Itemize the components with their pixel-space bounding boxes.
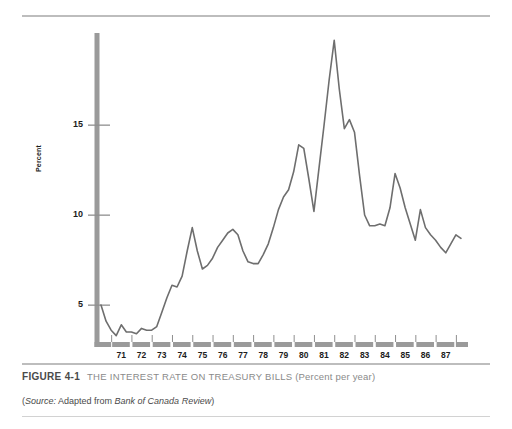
x-axis-segment	[173, 342, 191, 347]
x-tick-mark	[192, 335, 193, 342]
x-axis-segment	[193, 342, 211, 347]
x-tick-label-75: 75	[191, 350, 213, 360]
x-tick-label-80: 80	[293, 350, 315, 360]
x-tick-label-81: 81	[313, 350, 335, 360]
source-publication: Bank of Canada Review	[115, 396, 212, 406]
y-tick-mark	[88, 125, 110, 126]
y-axis-bar	[95, 33, 100, 347]
x-tick-mark	[152, 335, 153, 342]
x-axis-segment	[356, 342, 374, 347]
x-tick-label-73: 73	[151, 350, 173, 360]
caption-divider-rule	[22, 363, 490, 365]
x-tick-label-76: 76	[212, 350, 234, 360]
x-tick-mark	[415, 335, 416, 342]
y-tick-label-5: 5	[61, 299, 83, 309]
series-line-treasury-bill-rate	[101, 40, 461, 335]
x-axis-segment	[437, 342, 455, 347]
x-tick-label-74: 74	[171, 350, 193, 360]
x-axis-segment	[456, 342, 468, 347]
figure-caption: FIGURE 4-1THE INTEREST RATE ON TREASURY …	[22, 371, 492, 382]
x-axis-segment	[416, 342, 434, 347]
x-tick-mark	[456, 335, 457, 342]
x-tick-mark	[213, 335, 214, 342]
x-tick-label-79: 79	[273, 350, 295, 360]
x-tick-mark	[294, 335, 295, 342]
source-text: Adapted from	[56, 396, 115, 406]
x-axis-segment	[315, 342, 333, 347]
x-tick-mark	[253, 335, 254, 342]
x-tick-label-87: 87	[435, 350, 457, 360]
x-axis-segment	[376, 342, 394, 347]
x-axis-segment	[254, 342, 272, 347]
x-tick-mark	[334, 335, 335, 342]
x-axis-segment	[214, 342, 232, 347]
y-tick-mark	[88, 215, 110, 216]
x-tick-mark	[354, 335, 355, 342]
x-axis-segment	[153, 342, 171, 347]
y-tick-label-10: 10	[61, 209, 83, 219]
figure-page: Percent 51015 71727374757677787980818283…	[0, 0, 512, 429]
x-tick-mark	[111, 335, 112, 342]
x-axis-segment	[295, 342, 313, 347]
x-tick-label-85: 85	[394, 350, 416, 360]
source-label: Source:	[25, 396, 56, 406]
x-axis-segment	[234, 342, 252, 347]
x-tick-label-71: 71	[110, 350, 132, 360]
x-tick-mark	[314, 335, 315, 342]
x-tick-mark	[131, 335, 132, 342]
x-axis-segment	[112, 342, 130, 347]
x-tick-label-72: 72	[131, 350, 153, 360]
x-tick-marks	[95, 335, 469, 347]
x-tick-label-83: 83	[354, 350, 376, 360]
x-axis-segment	[396, 342, 414, 347]
x-axis-segment	[132, 342, 150, 347]
x-tick-label-78: 78	[252, 350, 274, 360]
x-tick-mark	[436, 335, 437, 342]
figure-title: THE INTEREST RATE ON TREASURY BILLS	[87, 371, 292, 382]
x-tick-label-84: 84	[374, 350, 396, 360]
x-axis-segment	[274, 342, 292, 347]
x-tick-label-77: 77	[232, 350, 254, 360]
y-tick-mark	[88, 305, 110, 306]
x-tick-label-82: 82	[333, 350, 355, 360]
x-tick-mark	[172, 335, 173, 342]
axis-group	[95, 33, 100, 347]
figure-source: (Source: Adapted from Bank of Canada Rev…	[22, 396, 214, 406]
x-tick-mark	[233, 335, 234, 342]
x-tick-mark	[375, 335, 376, 342]
x-tick-mark	[395, 335, 396, 342]
figure-number: FIGURE 4-1	[22, 371, 80, 382]
bottom-divider-rule	[22, 416, 490, 417]
figure-subtitle: (Percent per year)	[295, 371, 375, 382]
x-tick-mark	[273, 335, 274, 342]
x-tick-label-86: 86	[414, 350, 436, 360]
x-axis-segment	[335, 342, 353, 347]
source-close-paren: )	[211, 396, 214, 406]
y-axis-title: Percent	[35, 119, 42, 199]
y-tick-label-15: 15	[61, 119, 83, 129]
chart-plot-area: Percent 51015 71727374757677787980818283…	[0, 0, 512, 360]
x-axis-segment	[95, 342, 112, 347]
